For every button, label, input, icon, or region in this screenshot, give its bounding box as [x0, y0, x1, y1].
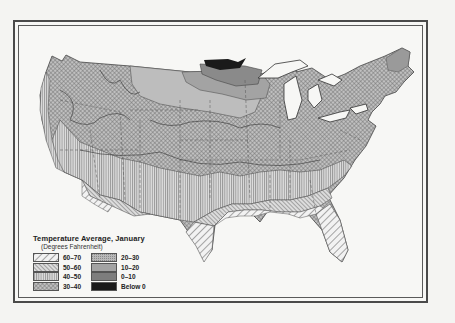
legend-item-60-70: 60–70 [33, 253, 81, 263]
legend-item-50-60: 50–60 [33, 263, 81, 273]
swatch-solid-light-icon [91, 263, 117, 272]
legend-item-20-30: 20–30 [91, 253, 146, 263]
legend-column-warm: 60–70 50–60 40–50 30–40 [33, 253, 81, 291]
region-60-70-texas [186, 222, 214, 262]
swatch-stipple-icon [91, 253, 117, 262]
legend-item-below-0: Below 0 [91, 282, 146, 292]
legend-item-40-50: 40–50 [33, 272, 81, 282]
region-60-70-florida [316, 204, 348, 262]
swatch-vertical-icon [33, 272, 59, 281]
legend-subtitle: (Degrees Fahrenheit) [41, 243, 183, 251]
legend-item-10-20: 10–20 [91, 263, 146, 273]
swatch-diag-coarse-icon [33, 253, 59, 262]
swatch-solid-dark-icon [91, 282, 117, 291]
legend-item-30-40: 30–40 [33, 282, 81, 292]
legend: Temperature Average, January (Degrees Fa… [33, 234, 183, 291]
swatch-crosshatch-icon [33, 282, 59, 291]
swatch-diag-fine-icon [33, 263, 59, 272]
legend-title: Temperature Average, January [33, 234, 183, 243]
legend-column-cold: 20–30 10–20 0–10 Below 0 [91, 253, 146, 291]
legend-item-0-10: 0–10 [91, 272, 146, 282]
swatch-solid-mid-icon [91, 272, 117, 281]
